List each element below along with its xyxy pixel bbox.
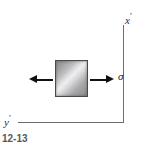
stress-element-figure: x′ y′ σ 12-13 <box>0 0 147 143</box>
axis-label-y-prime-mark: ′ <box>9 113 11 123</box>
stress-symbol-sigma: σ <box>118 71 123 82</box>
arrow-right-shaft <box>90 79 107 81</box>
axis-line-horizontal-icon <box>18 122 124 123</box>
arrow-right-icon <box>90 75 114 84</box>
stress-element-square <box>55 60 88 97</box>
arrow-right-head <box>106 75 114 83</box>
axis-label-x-prime-mark: ′ <box>130 11 132 21</box>
axis-label-x-prime: x′ <box>125 11 132 26</box>
axis-label-y-prime: y′ <box>4 113 11 128</box>
arrow-left-shaft <box>36 79 53 81</box>
figure-caption: 12-13 <box>2 134 28 143</box>
arrow-left-icon <box>29 75 53 84</box>
